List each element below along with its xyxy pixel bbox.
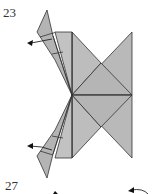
origami-diagram [0,0,152,194]
